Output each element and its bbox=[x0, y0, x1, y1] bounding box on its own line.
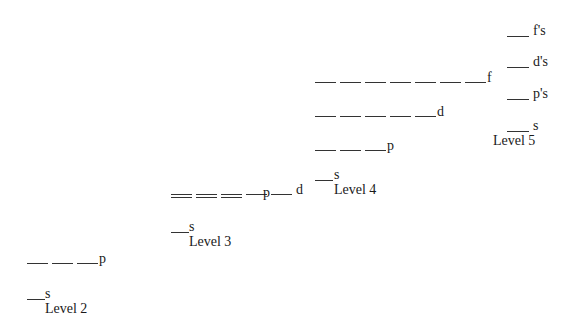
level-4-d-orbitals: d bbox=[315, 101, 444, 117]
sublevel-label-p: p bbox=[263, 186, 270, 200]
orbital-line bbox=[196, 197, 217, 198]
level-2-p-orbitals: p bbox=[27, 248, 106, 264]
level-label: Level 2 bbox=[45, 302, 87, 316]
sublevel-label-fs: f's bbox=[533, 24, 546, 38]
sublevel-label-s: s bbox=[189, 220, 194, 234]
sublevel-label-d: d bbox=[296, 183, 303, 197]
orbital-line bbox=[440, 82, 461, 83]
level-3-p-orbitals: p bbox=[171, 182, 270, 198]
level-5-s-orbital bbox=[507, 131, 529, 132]
orbital-line bbox=[340, 82, 361, 83]
orbital-line bbox=[390, 82, 411, 83]
orbital-line bbox=[315, 116, 336, 117]
orbital-line bbox=[390, 116, 411, 117]
sublevel-label-s: s bbox=[334, 168, 339, 182]
sublevel-label-ps: p's bbox=[533, 87, 548, 101]
orbital-line bbox=[315, 150, 336, 151]
orbital-line bbox=[340, 150, 361, 151]
level-4-p-orbitals: p bbox=[315, 135, 394, 151]
orbital-line bbox=[271, 194, 292, 195]
level-2-s-orbital bbox=[27, 299, 45, 300]
level-label: Level 5 bbox=[493, 134, 535, 148]
orbital-line bbox=[415, 116, 436, 117]
orbital-line bbox=[365, 150, 386, 151]
sublevel-label-p: p bbox=[387, 139, 394, 153]
orbital-line bbox=[52, 263, 73, 264]
orbital-line bbox=[171, 197, 192, 198]
sublevel-label-s: s bbox=[533, 119, 538, 133]
orbital-line bbox=[340, 116, 361, 117]
orbital-line bbox=[315, 82, 336, 83]
orbital-line bbox=[365, 82, 386, 83]
orbital-line bbox=[415, 82, 436, 83]
orbital-line bbox=[27, 263, 48, 264]
level-5-d-orbital bbox=[507, 67, 529, 68]
orbital-line bbox=[77, 263, 98, 264]
level-5-f-orbital bbox=[507, 36, 529, 37]
level-5-p-orbital bbox=[507, 99, 529, 100]
level-label: Level 4 bbox=[334, 183, 376, 197]
sublevel-label-d: d bbox=[437, 105, 444, 119]
level-4-f-orbitals: f bbox=[315, 67, 492, 83]
sublevel-label-p: p bbox=[99, 252, 106, 266]
orbital-line bbox=[465, 82, 486, 83]
level-3-s-orbital bbox=[171, 232, 189, 233]
orbital-line bbox=[365, 116, 386, 117]
sublevel-label-s: s bbox=[45, 287, 50, 301]
orbital-line bbox=[221, 197, 242, 198]
sublevel-label-ds: d's bbox=[533, 55, 548, 69]
sublevel-label-f: f bbox=[487, 71, 492, 85]
level-4-s-orbital bbox=[315, 180, 333, 181]
level-label: Level 3 bbox=[189, 235, 231, 249]
